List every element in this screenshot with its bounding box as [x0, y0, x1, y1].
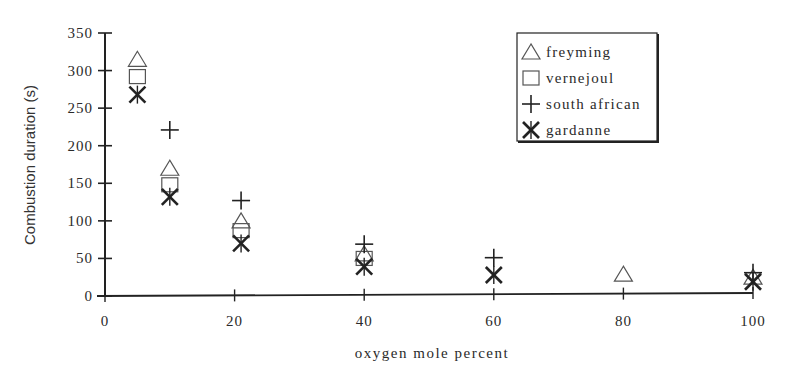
asterisk-marker-icon [486, 266, 502, 284]
asterisk-marker-icon [162, 188, 178, 206]
square-marker-icon [129, 70, 145, 84]
x-tick-label: 60 [485, 313, 502, 329]
x-tick-label: 0 [101, 313, 110, 329]
x-tick-label: 100 [740, 313, 766, 329]
legend-label: freyming [546, 44, 611, 60]
legend-label: gardanne [546, 122, 611, 138]
asterisk-marker-icon [129, 86, 145, 104]
legend-label: vernejoul [546, 70, 614, 86]
plus-marker-icon [161, 121, 179, 139]
plus-marker-icon [485, 249, 503, 267]
y-tick-label: 200 [68, 138, 94, 154]
data-points [128, 51, 762, 290]
y-tick-label: 50 [76, 250, 93, 266]
triangle-marker-icon [161, 160, 179, 175]
y-tick-label: 300 [68, 63, 94, 79]
asterisk-marker-icon [745, 273, 761, 291]
y-tick-label: 250 [68, 100, 94, 116]
y-tick-label: 350 [68, 25, 94, 41]
y-tick-label: 150 [68, 175, 94, 191]
legend-label: south african [546, 96, 641, 112]
y-axis-title: Combustion duration (s) [21, 85, 38, 245]
triangle-marker-icon [614, 266, 632, 281]
series-freyming [128, 51, 762, 284]
asterisk-marker-icon [356, 258, 372, 276]
y-tick-label: 100 [68, 213, 94, 229]
x-tick-label: 20 [226, 313, 243, 329]
triangle-marker-icon [232, 213, 250, 228]
asterisk-marker-icon [233, 234, 249, 252]
y-axis: 050100150200250300350 [68, 25, 113, 304]
series-gardanne [129, 86, 761, 291]
triangle-marker-icon [128, 51, 146, 66]
x-axis: 020406080100 [97, 287, 766, 329]
plus-marker-icon [355, 235, 373, 253]
legend: freymingvernejoulsouth africangardanne [517, 33, 659, 142]
series-south-african [161, 121, 762, 282]
plus-marker-icon [232, 192, 250, 210]
y-tick-label: 0 [85, 288, 94, 304]
scatter-chart: 050100150200250300350 020406080100 Combu… [0, 0, 786, 374]
x-tick-label: 40 [356, 313, 373, 329]
x-tick-label: 80 [615, 313, 632, 329]
x-axis-title: oxygen mole percent [355, 345, 509, 361]
